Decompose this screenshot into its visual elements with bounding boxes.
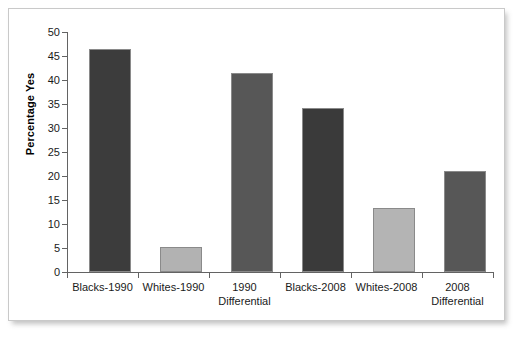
x-tick-4 [351, 273, 352, 278]
x-tick-0 [67, 273, 68, 278]
bar-blacks-2008 [302, 108, 344, 272]
y-tick-label-45: 45 [16, 51, 60, 62]
y-tick-15: 15 [9, 200, 60, 201]
bar-2008-differential [444, 171, 486, 272]
x-label-blacks-2008: Blacks-2008 [277, 280, 354, 294]
y-tick-35: 35 [9, 104, 60, 105]
bar-1990-differential [231, 73, 273, 272]
bar-blacks-1990 [89, 49, 131, 272]
x-label-whites-2008: Whites-2008 [348, 280, 425, 294]
x-label-2008-differential-line2: Differential [419, 294, 496, 308]
y-tick-label-30: 30 [16, 123, 60, 134]
x-label-blacks-1990-line1: Blacks-1990 [72, 281, 133, 293]
x-label-whites-2008-line1: Whites-2008 [356, 281, 418, 293]
x-tick-3 [280, 273, 281, 278]
x-label-blacks-1990: Blacks-1990 [64, 280, 141, 294]
bar-whites-2008 [373, 208, 415, 272]
plot-area [67, 32, 493, 272]
y-tick-label-10: 10 [16, 219, 60, 230]
x-label-1990-differential-line2: Differential [206, 294, 283, 308]
y-tick-label-15: 15 [16, 195, 60, 206]
bar-whites-1990 [160, 247, 202, 272]
x-tick-1 [138, 273, 139, 278]
y-tick-20: 20 [9, 176, 60, 177]
y-tick-label-0: 0 [16, 267, 60, 278]
y-tick-25: 25 [9, 152, 60, 153]
y-axis-title: Percentage Yes [24, 49, 36, 179]
y-tick-label-20: 20 [16, 171, 60, 182]
y-tick-5: 5 [9, 248, 60, 249]
chart-figure-frame: Percentage Yes 50 45 40 35 30 25 20 15 1… [8, 8, 505, 321]
y-tick-45: 45 [9, 56, 60, 57]
y-tick-label-40: 40 [16, 75, 60, 86]
y-tick-40: 40 [9, 80, 60, 81]
y-tick-10: 10 [9, 224, 60, 225]
x-label-1990-differential-line1: 1990 [232, 281, 256, 293]
x-tick-2 [209, 273, 210, 278]
x-tick-5 [422, 273, 423, 278]
x-label-2008-differential-line1: 2008 [445, 281, 469, 293]
y-tick-30: 30 [9, 128, 60, 129]
x-label-blacks-2008-line1: Blacks-2008 [285, 281, 346, 293]
y-tick-label-35: 35 [16, 99, 60, 110]
y-tick-label-5: 5 [16, 243, 60, 254]
y-tick-0: 0 [9, 272, 60, 273]
x-label-whites-1990: Whites-1990 [135, 280, 212, 294]
x-tick-6 [493, 273, 494, 278]
y-tick-label-50: 50 [16, 27, 60, 38]
y-tick-50: 50 [9, 32, 60, 33]
x-label-2008-differential: 2008 Differential [419, 280, 496, 308]
x-label-1990-differential: 1990 Differential [206, 280, 283, 308]
x-label-whites-1990-line1: Whites-1990 [143, 281, 205, 293]
y-tick-label-25: 25 [16, 147, 60, 158]
